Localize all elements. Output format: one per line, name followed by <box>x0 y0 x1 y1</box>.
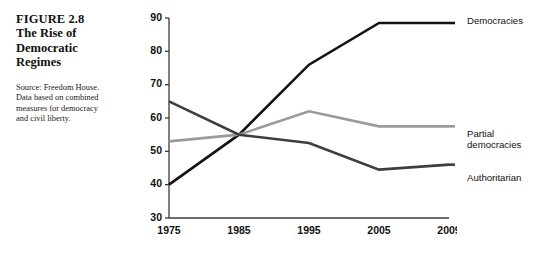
series-lines <box>169 23 455 185</box>
series-line-democracies <box>169 23 449 185</box>
x-tick-label: 2009 <box>437 224 457 236</box>
chart-svg: 30405060708090 19751985199520052009 <box>137 8 457 248</box>
series-label-partial-democracies: Partial democracies <box>467 128 521 150</box>
figure-title: The Rise of Democratic Regimes <box>16 26 114 70</box>
series-line-partial-democracies <box>169 111 449 141</box>
series-label-partial-line2: democracies <box>467 139 521 150</box>
y-tick-label: 50 <box>150 144 162 156</box>
y-tick-label: 40 <box>150 177 162 189</box>
y-tick-label: 70 <box>150 77 162 89</box>
x-tick-label: 1985 <box>227 224 251 236</box>
x-tick-label: 2005 <box>367 224 391 236</box>
x-tick-label: 1975 <box>157 224 181 236</box>
series-label-authoritarian: Authoritarian <box>467 172 521 183</box>
series-label-partial-line1: Partial <box>467 128 521 139</box>
y-axis: 30405060708090 <box>150 11 169 223</box>
series-label-democracies-text: Democracies <box>467 15 523 26</box>
y-tick-label: 80 <box>150 44 162 56</box>
series-label-democracies: Democracies <box>467 15 523 26</box>
figure-caption-block: FIGURE 2.8 The Rise of Democratic Regime… <box>16 12 114 125</box>
line-chart: 30405060708090 19751985199520052009 <box>137 8 457 248</box>
y-tick-label: 60 <box>150 111 162 123</box>
x-axis: 19751985199520052009 <box>157 218 457 236</box>
figure-number: FIGURE 2.8 <box>16 12 114 26</box>
x-tick-label: 1995 <box>297 224 321 236</box>
y-tick-label: 90 <box>150 11 162 23</box>
series-label-authoritarian-text: Authoritarian <box>467 172 521 183</box>
figure-container: FIGURE 2.8 The Rise of Democratic Regime… <box>0 0 557 276</box>
y-tick-label: 30 <box>150 211 162 223</box>
figure-source-note: Source: Freedom House. Data based on com… <box>16 83 106 125</box>
